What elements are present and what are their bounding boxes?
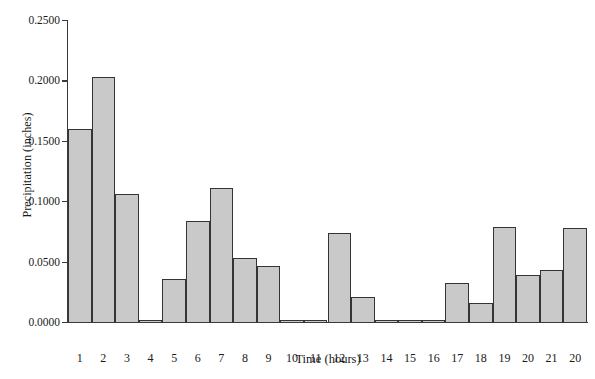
bar xyxy=(257,266,281,322)
bar xyxy=(139,320,163,322)
y-tick-label: 0.0000 xyxy=(28,314,60,330)
bar xyxy=(445,283,469,322)
bar xyxy=(493,227,517,322)
y-tick-mark xyxy=(62,20,68,21)
bar xyxy=(186,221,210,322)
bar xyxy=(68,129,92,322)
bar xyxy=(516,275,540,322)
bar xyxy=(563,228,587,322)
bar xyxy=(92,77,116,322)
bar xyxy=(162,279,186,322)
y-tick-label: 0.2000 xyxy=(28,72,60,88)
x-axis-title: Time (hours) xyxy=(68,352,588,367)
bar xyxy=(280,320,304,322)
y-tick-label: 0.2500 xyxy=(28,12,60,28)
bar xyxy=(398,320,422,322)
y-tick-mark xyxy=(62,322,68,323)
bar xyxy=(210,188,234,322)
bar xyxy=(351,297,375,322)
x-axis-line xyxy=(67,322,588,323)
bar xyxy=(304,320,328,322)
bar xyxy=(233,258,257,322)
y-tick-label: 0.1000 xyxy=(28,193,60,209)
y-tick-label: 0.0500 xyxy=(28,254,60,270)
bar xyxy=(422,320,446,322)
bar xyxy=(115,194,139,322)
y-axis-title: Precipitation (inches) xyxy=(18,0,36,330)
bar xyxy=(328,233,352,322)
y-tick-mark xyxy=(62,80,68,81)
y-tick-label: 0.1500 xyxy=(28,133,60,149)
bar xyxy=(540,270,564,322)
plot-area: 0.00000.05000.10000.15000.20000.2500 123… xyxy=(68,20,587,322)
bar xyxy=(375,320,399,322)
precipitation-bar-chart: Precipitation (inches) 0.00000.05000.100… xyxy=(0,0,595,379)
bar xyxy=(469,303,493,322)
